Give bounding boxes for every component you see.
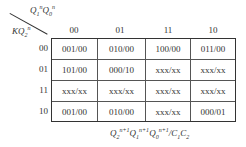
map-cell: 101/00: [52, 60, 98, 81]
column-header: 10: [190, 25, 236, 35]
map-cell: 100/00: [146, 39, 191, 60]
map-cell: xxx/xx: [98, 81, 146, 102]
column-variable-label: Q1nQ0n: [30, 4, 55, 17]
map-cell: 000/01: [191, 102, 235, 121]
map-cell: xxx/xx: [146, 102, 191, 121]
map-cell: xxx/xx: [52, 81, 98, 102]
karnaugh-map-grid: 001/00 010/00 100/00 011/00 101/00 000/1…: [51, 38, 236, 122]
map-cell: xxx/xx: [146, 60, 191, 81]
column-header: 00: [51, 25, 97, 35]
map-cell: xxx/xx: [191, 81, 235, 102]
column-header: 11: [145, 25, 191, 35]
row-header: 00: [32, 43, 48, 53]
map-cell: xxx/xx: [191, 60, 235, 81]
map-cell: 001/00: [52, 39, 98, 60]
map-cell: xxx/xx: [146, 81, 191, 102]
map-cell: 010/00: [98, 102, 146, 121]
output-caption: Q2n+1Q1n+1Q0n+1/C1C2: [110, 127, 189, 140]
map-cell: 011/00: [191, 39, 235, 60]
row-header: 01: [32, 64, 48, 74]
map-cell: 010/00: [98, 39, 146, 60]
row-header: 10: [32, 106, 48, 116]
map-cell: 000/10: [98, 60, 146, 81]
map-cell: 001/00: [52, 102, 98, 121]
row-variable-label: KQ2n: [12, 25, 31, 38]
row-header: 11: [32, 85, 48, 95]
column-header: 01: [97, 25, 143, 35]
